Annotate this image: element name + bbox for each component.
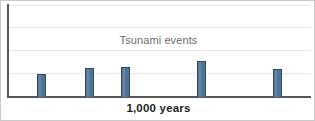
chart-figure: Tsunami events 1,000 years: [0, 0, 315, 121]
gridline-2: [8, 50, 311, 51]
bar-event-3: [121, 67, 130, 97]
gridline-4: [8, 5, 311, 6]
x-axis-title: 1,000 years: [1, 102, 315, 114]
plot-area: [8, 4, 311, 97]
bar-event-1: [37, 74, 46, 97]
x-axis-line: [8, 96, 311, 98]
gridline-3: [8, 27, 311, 28]
bar-event-2: [85, 68, 94, 97]
bar-event-4: [197, 61, 206, 97]
gridline-1: [8, 73, 311, 74]
bar-event-5: [273, 69, 282, 97]
y-axis-line: [7, 4, 9, 98]
series-label: Tsunami events: [1, 34, 315, 46]
